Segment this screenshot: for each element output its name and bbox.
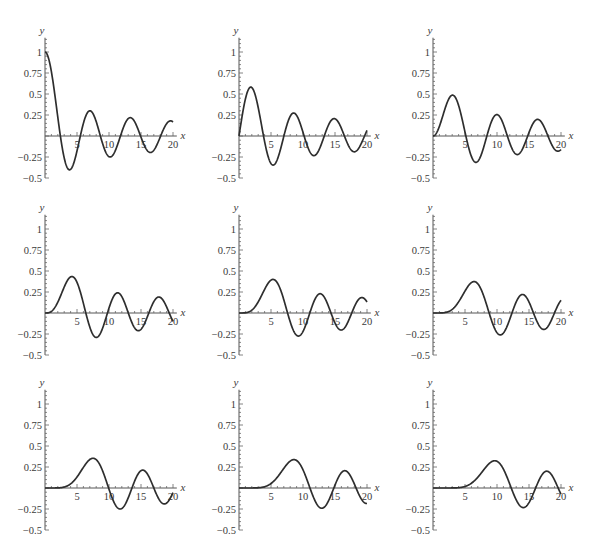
- x-tick-label: 20: [362, 491, 373, 502]
- y-tick-label: 1: [425, 224, 430, 235]
- plot-panel-j1: 10.750.50.25−0.25−0.55101520yx: [212, 24, 380, 184]
- x-tick-label: 20: [556, 139, 567, 150]
- bessel-curve-j2: [433, 95, 561, 162]
- y-tick-label: −0.5: [411, 525, 430, 536]
- y-tick-label: −0.25: [212, 329, 236, 340]
- y-tick-label: −0.25: [18, 152, 42, 163]
- y-tick-label: 0.5: [29, 266, 42, 277]
- y-axis-label: y: [427, 24, 433, 36]
- x-tick-label: 20: [362, 316, 373, 327]
- y-tick-label: 0.75: [24, 68, 42, 79]
- y-tick-label: 1: [425, 399, 430, 410]
- y-tick-label: 0.5: [417, 89, 430, 100]
- x-tick-label: 5: [74, 491, 79, 502]
- x-tick-label: 5: [268, 139, 273, 150]
- y-tick-label: −0.5: [217, 173, 236, 184]
- x-tick-label: 5: [74, 316, 79, 327]
- x-tick-label: 15: [524, 316, 535, 327]
- x-tick-label: 10: [492, 139, 503, 150]
- y-tick-label: 0.25: [218, 110, 236, 121]
- bessel-curve-j3: [45, 277, 173, 338]
- y-tick-label: 0.5: [223, 266, 236, 277]
- y-tick-label: 0.75: [24, 420, 42, 431]
- x-tick-label: 10: [298, 491, 309, 502]
- y-tick-label: −0.25: [212, 504, 236, 515]
- y-tick-label: 0.5: [29, 441, 42, 452]
- x-axis-label: x: [179, 306, 185, 318]
- x-axis-label: x: [179, 481, 185, 493]
- y-tick-label: −0.5: [411, 350, 430, 361]
- y-axis-label: y: [427, 376, 433, 388]
- y-tick-label: 0.75: [218, 420, 236, 431]
- y-tick-label: −0.25: [406, 329, 430, 340]
- y-axis-label: y: [39, 376, 45, 388]
- y-tick-label: 0.25: [412, 110, 430, 121]
- y-tick-label: −0.25: [406, 152, 430, 163]
- y-tick-label: −0.5: [217, 525, 236, 536]
- bessel-curve-j4: [239, 279, 367, 336]
- x-tick-label: 5: [462, 491, 467, 502]
- y-tick-label: 0.75: [24, 245, 42, 256]
- bessel-function-plot-grid: 10.750.50.25−0.25−0.55101520yx10.750.50.…: [0, 0, 594, 550]
- bessel-curve-j0: [45, 52, 173, 170]
- x-axis-label: x: [373, 306, 379, 318]
- x-tick-label: 15: [330, 139, 341, 150]
- y-axis-label: y: [39, 24, 45, 36]
- y-tick-label: 0.25: [24, 462, 42, 473]
- y-tick-label: 0.75: [412, 245, 430, 256]
- x-tick-label: 20: [168, 139, 179, 150]
- x-axis-label: x: [567, 306, 573, 318]
- y-tick-label: 1: [231, 47, 236, 58]
- plot-panel-j8: 10.750.50.25−0.25−0.55101520yx: [406, 376, 574, 536]
- y-tick-label: 0.5: [29, 89, 42, 100]
- y-tick-label: 0.5: [417, 441, 430, 452]
- plot-panel-j0: 10.750.50.25−0.25−0.55101520yx: [18, 24, 186, 184]
- plot-panel-j5: 10.750.50.25−0.25−0.55101520yx: [406, 201, 574, 361]
- y-tick-label: −0.5: [23, 350, 42, 361]
- x-tick-label: 10: [492, 491, 503, 502]
- x-axis-label: x: [373, 481, 379, 493]
- y-tick-label: 0.25: [218, 462, 236, 473]
- x-axis-label: x: [373, 129, 379, 141]
- y-tick-label: −0.5: [23, 525, 42, 536]
- x-tick-label: 5: [462, 316, 467, 327]
- y-tick-label: 0.75: [412, 420, 430, 431]
- y-tick-label: −0.25: [18, 504, 42, 515]
- y-tick-label: 0.5: [223, 89, 236, 100]
- x-tick-label: 15: [136, 491, 147, 502]
- y-tick-label: 0.25: [24, 287, 42, 298]
- y-tick-label: 1: [231, 399, 236, 410]
- y-tick-label: 1: [425, 47, 430, 58]
- plot-panel-j4: 10.750.50.25−0.25−0.55101520yx: [212, 201, 380, 361]
- x-axis-label: x: [567, 129, 573, 141]
- y-tick-label: 0.75: [218, 245, 236, 256]
- y-tick-label: 0.75: [412, 68, 430, 79]
- y-tick-label: 1: [37, 224, 42, 235]
- x-axis-label: x: [567, 481, 573, 493]
- y-tick-label: 0.75: [218, 68, 236, 79]
- y-tick-label: −0.5: [411, 173, 430, 184]
- y-tick-label: 0.25: [412, 462, 430, 473]
- y-tick-label: −0.5: [23, 173, 42, 184]
- bessel-curve-j1: [239, 87, 367, 165]
- plot-panel-j2: 10.750.50.25−0.25−0.55101520yx: [406, 24, 574, 184]
- y-tick-label: 0.25: [218, 287, 236, 298]
- y-tick-label: −0.5: [217, 350, 236, 361]
- y-tick-label: 0.25: [24, 110, 42, 121]
- y-axis-label: y: [427, 201, 433, 213]
- y-tick-label: −0.25: [18, 329, 42, 340]
- plot-panel-j3: 10.750.50.25−0.25−0.55101520yx: [18, 201, 186, 361]
- plot-panel-j6: 10.750.50.25−0.25−0.55101520yx: [18, 376, 186, 536]
- y-tick-label: 1: [37, 47, 42, 58]
- y-axis-label: y: [233, 201, 239, 213]
- y-tick-label: 1: [37, 399, 42, 410]
- x-axis-label: x: [179, 129, 185, 141]
- plot-panel-j7: 10.750.50.25−0.25−0.55101520yx: [212, 376, 380, 536]
- y-axis-label: y: [233, 376, 239, 388]
- y-tick-label: 0.25: [412, 287, 430, 298]
- y-tick-label: 1: [231, 224, 236, 235]
- x-tick-label: 10: [104, 139, 115, 150]
- x-tick-label: 5: [268, 491, 273, 502]
- x-tick-label: 20: [168, 316, 179, 327]
- y-axis-label: y: [39, 201, 45, 213]
